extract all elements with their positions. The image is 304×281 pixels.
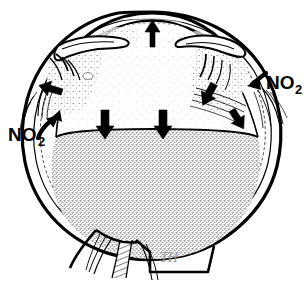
signature-text: TH [160,250,179,265]
no2-right-text: NO [266,72,295,93]
no2-left-subscript: 2 [38,134,45,149]
no2-right-subscript: 2 [295,82,302,97]
no2-left-text: NO [8,124,37,145]
eye-cross-section-illustration: NO 2 NO 2 TH [0,0,304,281]
artist-signature: TH [160,250,179,265]
eye-diagram-figure: NO 2 NO 2 TH [0,0,304,281]
